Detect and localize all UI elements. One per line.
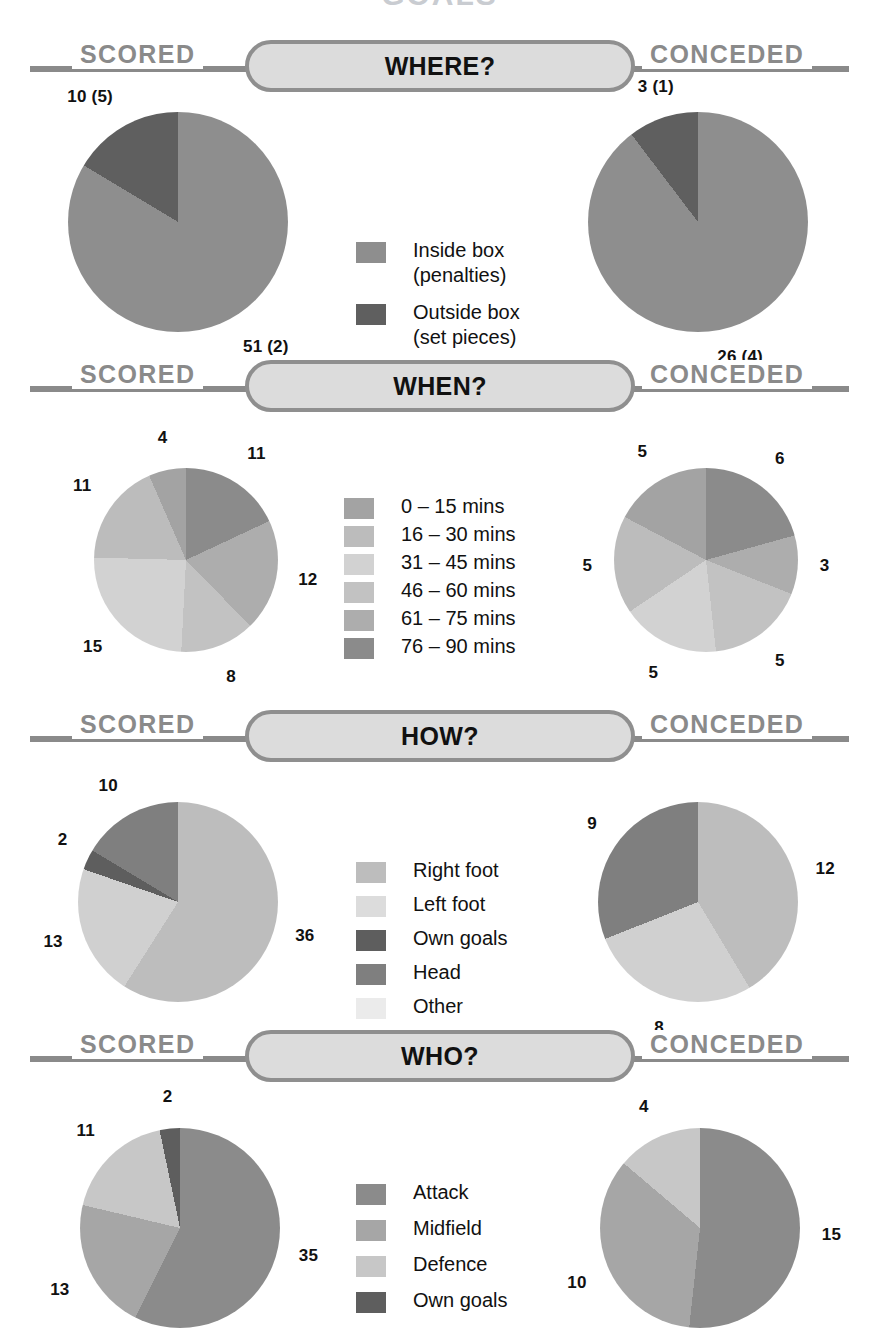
- legend-when: 0 – 15 mins16 – 30 mins31 – 45 mins46 – …: [344, 494, 516, 662]
- section-title-text: WHERE?: [385, 52, 496, 81]
- pie-graphic: [614, 468, 798, 652]
- legend-swatch-icon: [356, 1256, 386, 1277]
- pie-graphic: [598, 802, 798, 1002]
- pie-slice-label: 9: [587, 814, 597, 834]
- scored-label: SCORED: [72, 1030, 203, 1059]
- legend-item: Right foot: [356, 858, 508, 883]
- pie-graphic: [78, 802, 278, 1002]
- pie-slice-label: 15: [822, 1225, 841, 1245]
- pie-slice-label: 13: [43, 932, 62, 952]
- section-header-how: SCOREDCONCEDEDHOW?: [0, 688, 879, 760]
- conceded-label: CONCEDED: [642, 40, 812, 69]
- pie-chart-how-conceded: 1289: [518, 752, 878, 1052]
- legend-who: AttackMidfieldDefenceOwn goals: [356, 1180, 508, 1324]
- pie-slice-label: 35: [299, 1246, 318, 1266]
- section-header-who: SCOREDCONCEDEDWHO?: [0, 1008, 879, 1080]
- legend-item: Own goals: [356, 926, 508, 951]
- legend-label: 46 – 60 mins: [401, 578, 516, 603]
- section-title-text: WHEN?: [393, 372, 487, 401]
- legend-how: Right footLeft footOwn goalsHeadOther: [356, 858, 508, 1028]
- legend-item: 61 – 75 mins: [344, 606, 516, 631]
- pie-slice-label: 6: [775, 449, 785, 469]
- section-title-pill: WHERE?: [245, 40, 635, 92]
- pie-slice-label: 4: [158, 428, 168, 448]
- legend-swatch-icon: [356, 930, 386, 951]
- scored-label: SCORED: [72, 710, 203, 739]
- section-header-when: SCOREDCONCEDEDWHEN?: [0, 338, 879, 410]
- section-title-text: HOW?: [401, 722, 479, 751]
- pie-slice-label: 11: [76, 1121, 94, 1141]
- legend-label: 0 – 15 mins: [401, 494, 504, 519]
- legend-label: 31 – 45 mins: [401, 550, 516, 575]
- legend-label: Inside box (penalties): [413, 238, 506, 288]
- section-where: SCOREDCONCEDEDWHERE?Inside box (penaltie…: [0, 18, 879, 372]
- pie-slice-label: 4: [639, 1097, 649, 1117]
- legend-swatch-icon: [356, 862, 386, 883]
- pie-slice-label: 10 (5): [67, 87, 113, 107]
- legend-item: Inside box (penalties): [356, 238, 520, 288]
- pie-chart-where-scored: 51 (2)10 (5): [0, 62, 368, 382]
- legend-label: Right foot: [413, 858, 499, 883]
- pie-slice-label: 15: [83, 637, 102, 657]
- section-body-where: Inside box (penalties)Outside box (set p…: [0, 90, 879, 372]
- section-body-who: AttackMidfieldDefenceOwn goals3513112151…: [0, 1080, 879, 1332]
- pie-chart-when-scored: 1112815114: [14, 418, 358, 702]
- scored-label: SCORED: [72, 40, 203, 69]
- pie-slice-label: 5: [648, 663, 658, 683]
- section-title-pill: HOW?: [245, 710, 635, 762]
- legend-item: Left foot: [356, 892, 508, 917]
- legend-item: Defence: [356, 1252, 508, 1277]
- pie-slice-label: 10: [99, 776, 118, 796]
- pie-graphic: [600, 1128, 800, 1328]
- legend-label: Own goals: [413, 1288, 508, 1313]
- section-when: SCOREDCONCEDEDWHEN?0 – 15 mins16 – 30 mi…: [0, 338, 879, 692]
- legend-item: Head: [356, 960, 508, 985]
- pie-slice-label: 2: [163, 1087, 173, 1107]
- section-title-pill: WHO?: [245, 1030, 635, 1082]
- pie-slice-label: 11: [73, 476, 91, 496]
- section-title-text: WHO?: [401, 1042, 479, 1071]
- legend-label: Midfield: [413, 1216, 482, 1241]
- pie-slice-label: 5: [638, 442, 648, 462]
- section-body-how: Right footLeft footOwn goalsHeadOther361…: [0, 760, 879, 1042]
- pie-slice-label: 2: [58, 830, 68, 850]
- conceded-label: CONCEDED: [642, 710, 812, 739]
- legend-swatch-icon: [356, 1220, 386, 1241]
- pie-graphic: [80, 1128, 280, 1328]
- pie-slice-label: 5: [775, 651, 785, 671]
- conceded-label: CONCEDED: [642, 360, 812, 389]
- section-title-pill: WHEN?: [245, 360, 635, 412]
- pie-chart-who-scored: 3513112: [0, 1078, 360, 1332]
- section-who: SCOREDCONCEDEDWHO?AttackMidfieldDefenceO…: [0, 1008, 879, 1332]
- section-body-when: 0 – 15 mins16 – 30 mins31 – 45 mins46 – …: [0, 410, 879, 692]
- pie-slice-label: 3 (1): [638, 77, 674, 97]
- legend-label: 76 – 90 mins: [401, 634, 516, 659]
- legend-item: 76 – 90 mins: [344, 634, 516, 659]
- legend-item: Attack: [356, 1180, 508, 1205]
- legend-swatch-icon: [356, 896, 386, 917]
- legend-item: 46 – 60 mins: [344, 578, 516, 603]
- legend-item: Own goals: [356, 1288, 508, 1313]
- pie-chart-when-conceded: 635555: [534, 418, 878, 702]
- pie-slice-label: 12: [298, 570, 317, 590]
- legend-label: 61 – 75 mins: [401, 606, 516, 631]
- legend-label: Own goals: [413, 926, 508, 951]
- pie-slice-label: 10: [567, 1273, 586, 1293]
- legend-swatch-icon: [356, 1292, 386, 1313]
- page-title-clipped: GOALS: [0, 0, 879, 14]
- pie-slice-label: 8: [226, 667, 236, 687]
- legend-label: Attack: [413, 1180, 469, 1205]
- legend-swatch-icon: [356, 1184, 386, 1205]
- legend-label: Head: [413, 960, 461, 985]
- legend-item: 31 – 45 mins: [344, 550, 516, 575]
- page-title: GOALS: [0, 0, 879, 12]
- legend-item: 16 – 30 mins: [344, 522, 516, 547]
- conceded-label: CONCEDED: [642, 1030, 812, 1059]
- scored-label: SCORED: [72, 360, 203, 389]
- pie-slice-label: 12: [816, 859, 835, 879]
- pie-graphic: [94, 468, 278, 652]
- legend-item: 0 – 15 mins: [344, 494, 516, 519]
- pie-graphic: [588, 112, 808, 332]
- pie-slice-label: 3: [820, 556, 830, 576]
